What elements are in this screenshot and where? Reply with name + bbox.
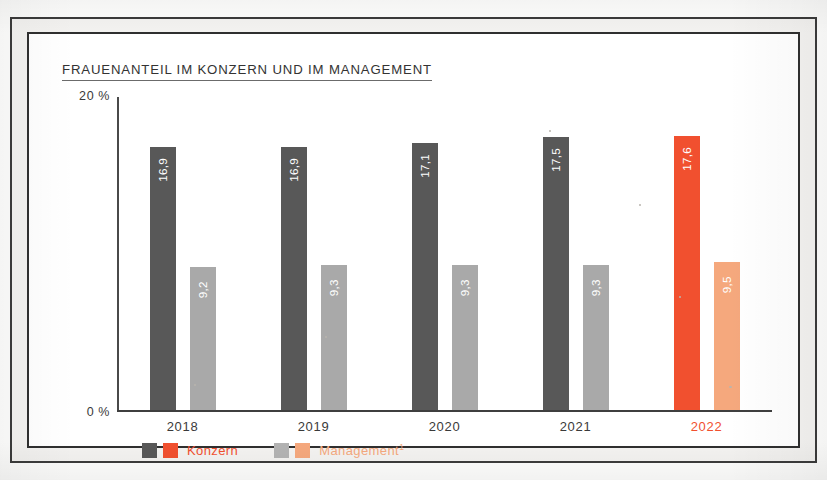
plot-area: 20 % 0 % 16,99,2201816,99,3201917,19,320… [117, 97, 772, 412]
bar-value-label: 17,1 [419, 154, 431, 178]
bar-value-label: 16,9 [157, 158, 169, 182]
legend-label: Management1 [319, 442, 404, 458]
bar-value-label: 17,5 [550, 148, 562, 172]
legend-item-management[interactable]: Management1 [274, 442, 404, 458]
bar-value-label: 9,3 [590, 279, 602, 296]
bar-management-2022[interactable]: 9,5 [714, 262, 740, 410]
bar-konzern-2018[interactable]: 16,9 [150, 147, 176, 411]
bar-value-label: 9,5 [721, 276, 733, 293]
legend-label: Konzern [187, 443, 238, 458]
bar-management-2019[interactable]: 9,3 [321, 265, 347, 410]
bar-value-label: 9,2 [197, 281, 209, 298]
x-tick-label-2019: 2019 [298, 419, 330, 434]
bar-value-label: 9,3 [459, 279, 471, 296]
bar-management-2020[interactable]: 9,3 [452, 265, 478, 410]
legend-swatch-gray [142, 443, 157, 458]
scanned-page: FRAUENANTEIL IM KONZERN UND IM MANAGEMEN… [0, 0, 827, 480]
chart-legend: KonzernManagement1 [142, 442, 404, 458]
x-tick-label-2018: 2018 [167, 419, 199, 434]
y-axis-max-label: 20 % [79, 89, 110, 103]
bar-value-label: 16,9 [288, 158, 300, 182]
legend-swatch-accent [163, 443, 178, 458]
bar-group-2020: 17,19,32020 [380, 98, 510, 410]
bar-group-2019: 16,99,32019 [249, 98, 379, 410]
bar-value-label: 9,3 [328, 279, 340, 296]
bar-management-2018[interactable]: 9,2 [190, 267, 216, 411]
legend-footnote-marker: 1 [399, 442, 404, 452]
bar-konzern-2019[interactable]: 16,9 [281, 147, 307, 411]
bar-group-2018: 16,99,22018 [118, 98, 248, 410]
x-tick-label-2021: 2021 [560, 419, 592, 434]
x-tick-label-2022: 2022 [691, 419, 723, 434]
bar-management-2021[interactable]: 9,3 [583, 265, 609, 410]
legend-swatch-accent [295, 443, 310, 458]
legend-swatch-gray [274, 443, 289, 458]
bar-group-2021: 17,59,32021 [511, 98, 641, 410]
page-title: FRAUENANTEIL IM KONZERN UND IM MANAGEMEN… [62, 62, 432, 81]
legend-item-konzern[interactable]: Konzern [142, 443, 238, 458]
y-axis-zero-label: 0 % [87, 405, 110, 419]
chart-card: FRAUENANTEIL IM KONZERN UND IM MANAGEMEN… [27, 32, 800, 448]
bar-group-2022: 17,69,52022 [642, 98, 772, 410]
bar-konzern-2022[interactable]: 17,6 [674, 136, 700, 411]
bar-konzern-2021[interactable]: 17,5 [543, 137, 569, 410]
x-tick-label-2020: 2020 [429, 419, 461, 434]
bar-konzern-2020[interactable]: 17,1 [412, 143, 438, 410]
bar-value-label: 17,6 [681, 147, 693, 171]
x-axis-line [117, 410, 772, 412]
